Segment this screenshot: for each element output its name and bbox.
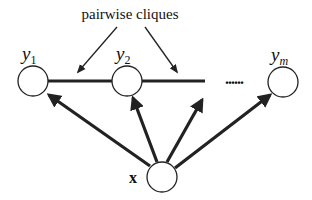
ellipsis: ......	[225, 70, 244, 87]
label-y2: y2	[114, 43, 130, 67]
annotation-label: pairwise cliques	[81, 6, 178, 22]
crf-diagram: pairwise cliques ...... y1 y2 ym x	[0, 0, 312, 200]
edge-x-y2	[133, 98, 157, 162]
node-y2	[112, 66, 142, 96]
label-ym: ym	[269, 44, 288, 68]
edge-x-ym	[175, 95, 270, 168]
label-y1: y1	[20, 43, 36, 67]
node-y1	[18, 66, 48, 96]
annotation-arrow-right	[145, 27, 177, 72]
annotation-arrow-left	[78, 27, 117, 72]
diagram-svg: pairwise cliques ...... y1 y2 ym x	[0, 0, 312, 200]
node-ym	[268, 67, 298, 97]
node-x	[147, 162, 177, 192]
label-x: x	[129, 169, 137, 186]
